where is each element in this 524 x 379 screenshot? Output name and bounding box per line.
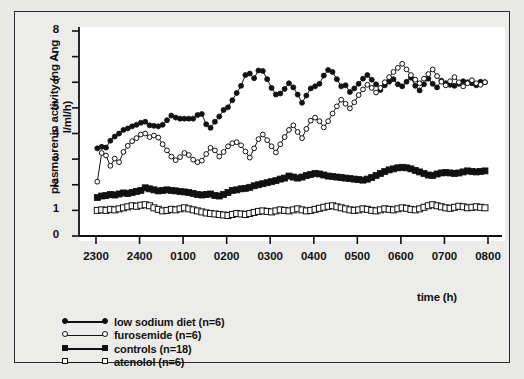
figure-container: plasma renin activity (ng Ang I/ml/h) ti… — [0, 0, 524, 379]
x-tick-label: 0600 — [379, 250, 423, 262]
legend-label: furosemide (n=6) — [108, 329, 201, 341]
y-tick-label: 2 — [46, 177, 66, 189]
x-tick-label: 0200 — [205, 250, 249, 262]
y-tick-label: 6 — [46, 74, 66, 86]
y-tick-label: 1 — [46, 202, 66, 214]
y-tick-label: 7 — [46, 49, 66, 61]
legend-marker-open-square-icon — [60, 356, 108, 368]
legend-label: controls (n=18) — [108, 343, 192, 355]
chart-legend: low sodium diet (n=6)furosemide (n=6)con… — [60, 315, 225, 369]
legend-marker-filled-circle-icon — [60, 316, 108, 328]
y-tick-label: 0 — [46, 228, 66, 240]
legend-label: atenolol (n=6) — [108, 356, 184, 368]
x-tick-label: 0400 — [292, 250, 336, 262]
y-tick-label: 5 — [46, 100, 66, 112]
x-tick-label: 0100 — [161, 250, 205, 262]
x-tick-label: 0300 — [248, 250, 292, 262]
y-tick-label: 8 — [46, 23, 66, 35]
x-tick-label: 0500 — [335, 250, 379, 262]
legend-item[interactable]: low sodium diet (n=6) — [60, 315, 225, 329]
legend-item[interactable]: furosemide (n=6) — [60, 329, 225, 343]
legend-label: low sodium diet (n=6) — [108, 316, 225, 328]
figure-frame: plasma renin activity (ng Ang I/ml/h) ti… — [14, 11, 510, 363]
chart-plot-area — [15, 12, 511, 364]
x-axis-title: time (h) — [417, 291, 457, 303]
legend-item[interactable]: controls (n=18) — [60, 342, 225, 356]
x-tick-label: 2400 — [118, 250, 162, 262]
legend-item[interactable]: atenolol (n=6) — [60, 356, 225, 370]
legend-marker-open-circle-icon — [60, 329, 108, 341]
x-tick-label: 0800 — [466, 250, 510, 262]
y-tick-label: 4 — [46, 126, 66, 138]
x-tick-label: 2300 — [74, 250, 118, 262]
y-tick-label: 3 — [46, 151, 66, 163]
x-tick-label: 0700 — [422, 250, 466, 262]
legend-marker-filled-square-icon — [60, 343, 108, 355]
